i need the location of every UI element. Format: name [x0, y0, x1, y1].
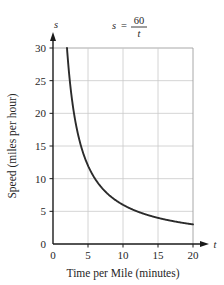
x-axis-variable-label: t — [214, 239, 218, 250]
equation-numerator: 60 — [134, 15, 145, 26]
x-tick-label-5: 5 — [85, 249, 91, 261]
x-tick-label-10: 10 — [118, 249, 130, 261]
equation-equals: = — [121, 20, 127, 31]
chart-figure: 0 5 10 15 20 25 30 0 5 10 15 20 s t Time… — [0, 0, 224, 285]
y-tick-label-20: 20 — [35, 107, 47, 119]
y-axis-variable-label: s — [54, 19, 58, 30]
x-tick-label-0: 0 — [50, 249, 56, 261]
y-tick-label-30: 30 — [35, 42, 47, 54]
y-tick-label-15: 15 — [35, 140, 47, 152]
y-tick-label-5: 5 — [41, 205, 47, 217]
x-tick-label-20: 20 — [188, 249, 200, 261]
y-axis-title: Speed (miles per hour) — [6, 93, 19, 198]
curve-s-equals-60-over-t — [67, 48, 193, 224]
y-tick-label-0: 0 — [41, 238, 47, 250]
y-axis-arrowhead — [50, 32, 56, 41]
x-axis-arrowhead — [200, 241, 209, 247]
equation-annotation: s = 60 t — [112, 15, 147, 39]
y-tick-label-25: 25 — [35, 75, 47, 87]
equation-denominator: t — [138, 28, 142, 39]
axis-lines — [50, 32, 209, 247]
y-tick-label-10: 10 — [35, 173, 47, 185]
x-axis-title: Time per Mile (minutes) — [67, 267, 180, 280]
chart-canvas: 0 5 10 15 20 25 30 0 5 10 15 20 s t Time… — [0, 0, 224, 285]
x-tick-label-15: 15 — [153, 249, 165, 261]
equation-lhs: s — [112, 20, 116, 31]
